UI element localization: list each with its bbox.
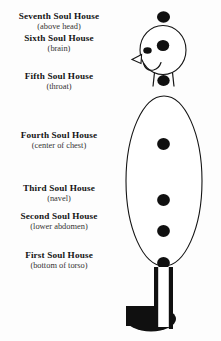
leg-left (154, 267, 158, 327)
crown-point-icon (157, 11, 170, 23)
label-column: Seventh Soul House (above head) Sixth So… (0, 0, 118, 341)
leg-gap (157, 267, 171, 327)
torso-outline (126, 96, 202, 266)
label-location: (throat) (0, 82, 118, 92)
leg-right (169, 267, 173, 329)
lower-abdomen-point-icon (157, 225, 170, 237)
label-title: Fifth Soul House (0, 71, 118, 82)
label-location: (above head) (0, 22, 118, 32)
label-title: Seventh Soul House (0, 11, 118, 22)
label-title: First Soul House (0, 250, 118, 261)
label-title: Third Soul House (0, 183, 118, 194)
throat-point-icon (157, 75, 169, 86)
label-location: (center of chest) (0, 141, 118, 151)
label-fifth-soul-house: Fifth Soul House (throat) (0, 71, 118, 92)
label-title: Second Soul House (0, 211, 118, 222)
neck-left-edge (153, 73, 155, 87)
chest-point-icon (157, 138, 170, 150)
label-location: (brain) (0, 44, 118, 54)
soul-houses-diagram: Seventh Soul House (above head) Sixth So… (0, 0, 221, 341)
human-figure-illustration (118, 0, 221, 341)
label-fourth-soul-house: Fourth Soul House (center of chest) (0, 130, 118, 151)
nose-icon (132, 55, 142, 64)
label-first-soul-house: First Soul House (bottom of torso) (0, 250, 118, 271)
label-location: (navel) (0, 194, 118, 204)
brow-point-icon (157, 40, 169, 51)
label-third-soul-house: Third Soul House (navel) (0, 183, 118, 204)
label-seventh-soul-house: Seventh Soul House (above head) (0, 11, 118, 32)
label-sixth-soul-house: Sixth Soul House (brain) (0, 33, 118, 54)
figure-column (118, 0, 221, 341)
neck-right-edge (173, 73, 175, 87)
label-location: (lower abdomen) (0, 222, 118, 232)
label-title: Sixth Soul House (0, 33, 118, 44)
label-location: (bottom of torso) (0, 261, 118, 271)
eye-icon (143, 47, 151, 53)
navel-point-icon (157, 194, 170, 206)
label-second-soul-house: Second Soul House (lower abdomen) (0, 211, 118, 232)
label-title: Fourth Soul House (0, 130, 118, 141)
